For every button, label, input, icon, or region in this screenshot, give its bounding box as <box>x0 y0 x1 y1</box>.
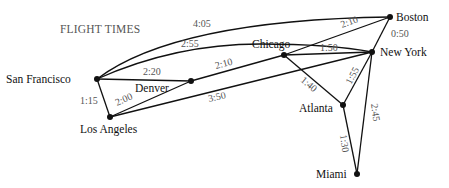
node-miami <box>354 171 360 177</box>
route-sf-denver <box>97 79 191 81</box>
time-la-denver: 2:00 <box>113 91 134 108</box>
node-new-york <box>369 49 375 55</box>
city-label-denver: Denver <box>135 82 169 94</box>
city-label-boston: Boston <box>396 11 429 23</box>
node-los-angeles <box>107 114 113 120</box>
node-atlanta <box>340 102 346 108</box>
time-chicago-newyork: 1:50 <box>320 42 338 53</box>
route-sf-losangeles <box>97 79 110 117</box>
time-la-newyork: 3:50 <box>207 89 227 104</box>
city-label-chicago: Chicago <box>252 38 291 51</box>
diagram-title: FLIGHT TIMES <box>60 23 140 35</box>
time-denver-chicago: 2:10 <box>214 56 234 71</box>
time-boston-newyork: 0:50 <box>391 28 409 39</box>
time-atlanta-miami: 1:30 <box>338 134 351 153</box>
node-san-francisco <box>94 76 100 82</box>
time-sf-boston: 4:05 <box>193 18 211 29</box>
city-label-san-francisco: San Francisco <box>6 73 71 85</box>
time-newyork-miami: 2:45 <box>369 103 382 122</box>
time-sf-losangeles: 1:15 <box>80 95 98 106</box>
city-label-atlanta: Atlanta <box>299 102 333 114</box>
city-label-los-angeles: Los Angeles <box>80 123 138 136</box>
node-denver <box>188 78 194 84</box>
flight-times-diagram: FLIGHT TIMES San Francisco Denver Los An… <box>0 0 449 188</box>
time-sf-newyork: 2:55 <box>181 38 199 49</box>
time-chicago-atlanta: 1:40 <box>299 74 320 94</box>
node-boston <box>387 14 393 20</box>
city-label-miami: Miami <box>316 168 347 180</box>
city-label-new-york: New York <box>380 46 427 58</box>
time-sf-denver: 2:20 <box>143 66 161 77</box>
time-chicago-boston: 2:10 <box>339 13 359 29</box>
node-chicago <box>281 52 287 58</box>
